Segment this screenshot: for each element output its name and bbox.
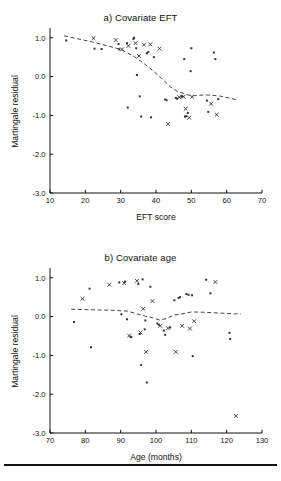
- panel-covariate-eft: a) Covariate EFT 102030405060701.00.0-1.…: [0, 0, 281, 240]
- svg-text:30: 30: [116, 196, 124, 205]
- svg-text:0.0: 0.0: [35, 312, 46, 321]
- svg-text:1.0: 1.0: [35, 34, 46, 43]
- svg-text:EFT score: EFT score: [136, 212, 176, 222]
- bottom-divider-rule: [4, 464, 277, 466]
- svg-text:100: 100: [150, 436, 163, 445]
- svg-text:20: 20: [81, 196, 89, 205]
- svg-text:Age (months): Age (months): [130, 452, 182, 462]
- svg-text:120: 120: [220, 436, 233, 445]
- svg-text:110: 110: [185, 436, 197, 445]
- svg-text:-2.0: -2.0: [32, 390, 45, 399]
- svg-text:130: 130: [256, 436, 269, 445]
- svg-text:50: 50: [187, 196, 195, 205]
- panel-a-plot: 102030405060701.00.0-1.0-2.0-3.0EFT scor…: [0, 0, 281, 240]
- svg-text:Martingale residual: Martingale residual: [10, 75, 20, 148]
- svg-text:10: 10: [46, 196, 54, 205]
- svg-text:60: 60: [222, 196, 230, 205]
- svg-text:Martingale residual: Martingale residual: [10, 315, 20, 388]
- svg-text:0.0: 0.0: [35, 72, 46, 81]
- panel-b-plot: 7080901001101201301.00.0-1.0-2.0-3.0Age …: [0, 240, 281, 480]
- figure-container: a) Covariate EFT 102030405060701.00.0-1.…: [0, 0, 281, 481]
- svg-text:1.0: 1.0: [35, 274, 46, 283]
- svg-text:70: 70: [46, 436, 54, 445]
- panel-covariate-age: b) Covariate age 7080901001101201301.00.…: [0, 240, 281, 480]
- svg-text:-1.0: -1.0: [32, 351, 45, 360]
- svg-text:-3.0: -3.0: [32, 189, 45, 198]
- svg-text:80: 80: [81, 436, 89, 445]
- svg-text:-3.0: -3.0: [32, 429, 45, 438]
- svg-text:-1.0: -1.0: [32, 111, 45, 120]
- svg-text:90: 90: [116, 436, 124, 445]
- svg-text:70: 70: [258, 196, 266, 205]
- svg-text:-2.0: -2.0: [32, 150, 45, 159]
- svg-text:40: 40: [152, 196, 160, 205]
